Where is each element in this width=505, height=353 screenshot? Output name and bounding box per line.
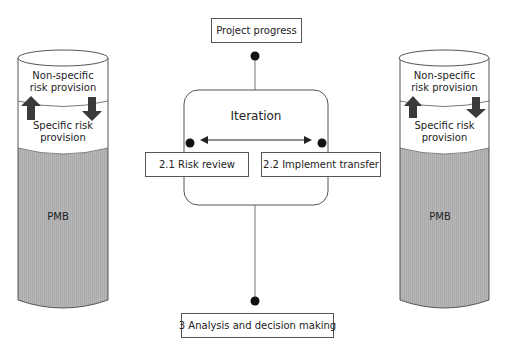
label-line: provision <box>18 132 108 144</box>
iteration-frame <box>184 90 328 205</box>
iteration-title: Iteration <box>184 110 328 122</box>
label-line: Non-specific <box>400 70 489 82</box>
label-line: risk provision <box>18 82 108 94</box>
risk-review-box: 2.1 Risk review <box>145 152 249 177</box>
right-nonspecific-label: Non-specific risk provision <box>400 70 489 94</box>
down-arrow-icon <box>466 97 486 118</box>
down-arrow-icon <box>82 97 102 121</box>
label-line: Specific risk <box>400 120 489 132</box>
label-line: provision <box>400 132 489 144</box>
right-specific-label: Specific risk provision <box>400 120 489 144</box>
up-arrow-icon <box>404 96 422 118</box>
implement-transfer-box: 2.2 Implement transfer <box>261 152 381 177</box>
dot-left <box>186 139 195 148</box>
right-pmb-label: PMB <box>420 211 460 223</box>
project-progress-box: Project progress <box>211 18 302 43</box>
diagram-canvas <box>0 0 505 353</box>
dot-bottom <box>251 297 260 306</box>
label-line: risk provision <box>400 82 489 94</box>
left-nonspecific-label: Non-specific risk provision <box>18 70 108 94</box>
left-pmb-label: PMB <box>38 211 78 223</box>
label-line: Non-specific <box>18 70 108 82</box>
dot-top <box>251 52 260 61</box>
up-arrow-icon <box>21 96 41 120</box>
analysis-decision-box: 3 Analysis and decision making <box>181 313 334 338</box>
left-specific-label: Specific risk provision <box>18 120 108 144</box>
label-line: Specific risk <box>18 120 108 132</box>
dot-right <box>318 139 327 148</box>
